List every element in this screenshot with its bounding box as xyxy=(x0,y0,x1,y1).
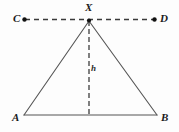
line-segment-xa xyxy=(24,21,89,115)
vertex-label-x: X xyxy=(85,2,92,13)
point-dot-x xyxy=(87,18,91,22)
geometry-figure: C D X A B h xyxy=(0,0,179,132)
vertex-label-d: D xyxy=(160,13,168,24)
point-dot-d xyxy=(152,17,156,21)
altitude-label-h: h xyxy=(91,64,96,73)
point-dot-c xyxy=(22,17,26,21)
diagram-canvas xyxy=(0,0,179,132)
vertex-label-b: B xyxy=(161,112,168,123)
line-segment-xb xyxy=(89,21,157,115)
vertex-label-c: C xyxy=(13,13,20,24)
vertex-label-a: A xyxy=(12,112,19,123)
